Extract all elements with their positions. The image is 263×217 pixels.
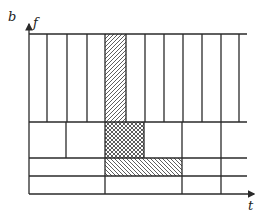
panel-label: b bbox=[8, 9, 16, 24]
crosshatched-cell bbox=[105, 122, 144, 158]
x-axis-label: t bbox=[248, 198, 254, 213]
wideband-row-dividers bbox=[47, 34, 239, 122]
hatched-backward-cell bbox=[105, 158, 182, 176]
mid-row-dividers bbox=[66, 122, 221, 158]
hatched-forward-cell bbox=[105, 34, 126, 122]
y-axis-label: f bbox=[32, 15, 40, 30]
tf-tiling-diagram: b f t bbox=[0, 0, 263, 217]
